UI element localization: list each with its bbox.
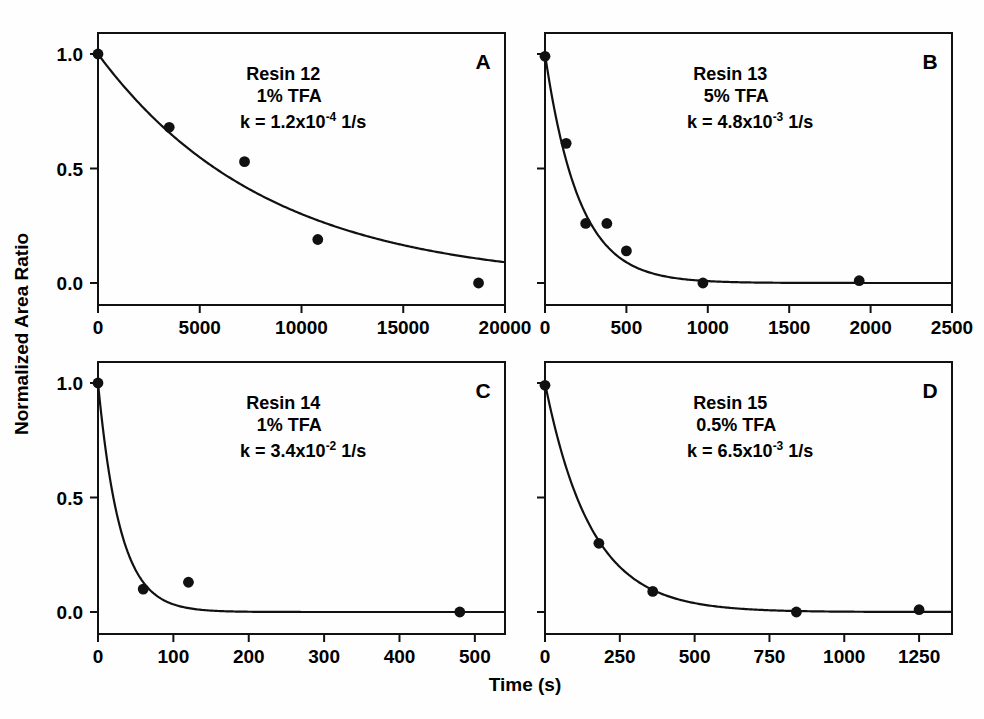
data-point-a-2: [239, 156, 250, 167]
x-tick-label-c-0: 0: [93, 646, 104, 667]
data-point-b-2: [580, 218, 591, 229]
panel-c: 01002003004005000.00.51.0CResin 141% TFA…: [57, 362, 505, 667]
x-tick-label-a-0: 0: [93, 317, 104, 338]
annotation-rate-d: k = 6.5x10-3 1/s: [687, 439, 813, 461]
x-tick-label-d-2: 500: [679, 646, 711, 667]
data-point-b-6: [854, 275, 865, 286]
annotation-tfa-d: 0.5% TFA: [696, 415, 776, 435]
x-tick-label-b-1: 500: [611, 317, 643, 338]
figure-panel-grid: 050001000015000200000.00.51.0AResin 121%…: [0, 0, 984, 719]
x-tick-label-c-3: 300: [308, 646, 340, 667]
data-point-d-1: [593, 538, 604, 549]
data-point-a-0: [93, 49, 104, 60]
x-tick-label-d-4: 1000: [823, 646, 865, 667]
x-tick-label-a-3: 15000: [377, 317, 430, 338]
x-tick-label-a-4: 20000: [479, 317, 532, 338]
rate-prefix-a: k = 1.2x10: [240, 112, 326, 132]
x-tick-label-c-1: 100: [158, 646, 190, 667]
y-tick-label-c-2: 1.0: [57, 373, 83, 394]
x-tick-label-b-0: 0: [540, 317, 551, 338]
x-axis-title: Time (s): [489, 674, 562, 695]
panel-letter-b: B: [922, 50, 937, 73]
panel-a: 050001000015000200000.00.51.0AResin 121%…: [57, 33, 532, 338]
data-point-a-1: [164, 122, 175, 133]
annotation-tfa-b: 5% TFA: [704, 86, 769, 106]
x-tick-label-d-0: 0: [540, 646, 551, 667]
data-point-b-5: [698, 278, 709, 289]
panel-b: 05001000150020002500BResin 135% TFAk = 4…: [537, 33, 973, 338]
annotation-tfa-c: 1% TFA: [257, 415, 322, 435]
rate-prefix-c: k = 3.4x10: [240, 441, 326, 461]
rate-suffix-d: 1/s: [783, 441, 813, 461]
rate-suffix-a: 1/s: [336, 112, 366, 132]
rate-suffix-c: 1/s: [336, 441, 366, 461]
four-panel-decay-figure: 050001000015000200000.00.51.0AResin 121%…: [0, 0, 984, 719]
data-point-b-4: [621, 246, 632, 257]
y-axis-title: Normalized Area Ratio: [11, 233, 32, 435]
data-point-d-3: [791, 607, 802, 618]
rate-suffix-b: 1/s: [783, 112, 813, 132]
x-tick-label-d-5: 1250: [898, 646, 940, 667]
y-tick-label-a-0: 0.0: [57, 273, 83, 294]
x-tick-label-c-5: 500: [459, 646, 491, 667]
rate-prefix-d: k = 6.5x10: [687, 441, 773, 461]
panel-letter-c: C: [475, 379, 490, 402]
x-tick-label-b-2: 1000: [687, 317, 729, 338]
data-point-a-4: [473, 278, 484, 289]
x-tick-label-a-1: 5000: [179, 317, 221, 338]
annotation-resin-a: Resin 12: [246, 64, 320, 84]
x-tick-label-a-2: 10000: [275, 317, 328, 338]
x-tick-label-b-3: 1500: [768, 317, 810, 338]
annotation-resin-c: Resin 14: [246, 393, 320, 413]
annotation-rate-a: k = 1.2x10-4 1/s: [240, 110, 366, 132]
x-tick-label-c-4: 400: [384, 646, 416, 667]
data-point-b-0: [540, 51, 551, 62]
x-tick-label-d-3: 750: [754, 646, 786, 667]
rate-exponent-d: -3: [773, 439, 784, 453]
x-tick-label-d-1: 250: [604, 646, 636, 667]
y-tick-label-a-1: 0.5: [57, 159, 84, 180]
y-tick-label-a-2: 1.0: [57, 44, 83, 65]
data-point-d-2: [647, 586, 658, 597]
annotation-resin-b: Resin 13: [693, 64, 767, 84]
x-tick-label-b-4: 2000: [849, 317, 891, 338]
data-point-d-4: [914, 604, 925, 615]
rate-exponent-a: -4: [326, 110, 337, 124]
annotation-tfa-a: 1% TFA: [257, 86, 322, 106]
annotation-rate-b: k = 4.8x10-3 1/s: [687, 110, 813, 132]
data-point-c-0: [93, 378, 104, 389]
annotation-resin-d: Resin 15: [693, 393, 767, 413]
data-point-b-1: [561, 138, 572, 149]
x-tick-label-c-2: 200: [233, 646, 265, 667]
data-point-d-0: [540, 380, 551, 391]
annotation-rate-c: k = 3.4x10-2 1/s: [240, 439, 366, 461]
data-point-b-3: [601, 218, 612, 229]
panel-d: 025050075010001250DResin 150.5% TFAk = 6…: [537, 362, 952, 667]
x-tick-label-b-5: 2500: [931, 317, 973, 338]
rate-exponent-b: -3: [773, 110, 784, 124]
data-point-c-1: [138, 584, 149, 595]
data-point-c-3: [454, 607, 465, 618]
panel-letter-d: D: [922, 379, 937, 402]
data-point-c-2: [183, 577, 194, 588]
rate-exponent-c: -2: [326, 439, 337, 453]
y-tick-label-c-0: 0.0: [57, 602, 83, 623]
panel-letter-a: A: [475, 50, 490, 73]
data-point-a-3: [312, 234, 323, 245]
y-tick-label-c-1: 0.5: [57, 488, 84, 509]
rate-prefix-b: k = 4.8x10: [687, 112, 773, 132]
